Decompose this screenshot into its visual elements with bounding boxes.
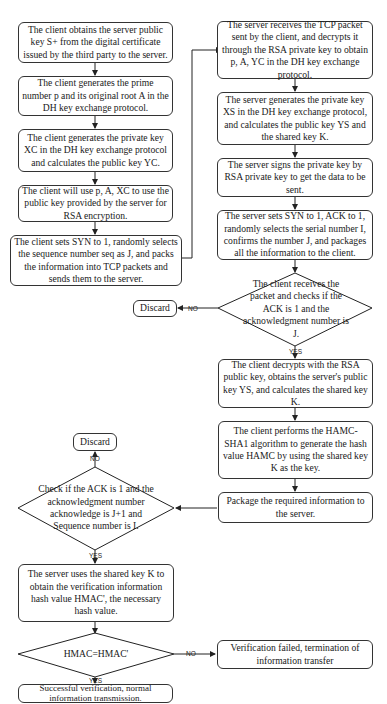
- yes-label-1: YES: [289, 348, 302, 355]
- step-server-verify-hash: The server uses the shared key K to obta…: [18, 564, 174, 622]
- no-label-2: NO: [90, 455, 100, 462]
- step-verification-success: Successful verification, normal informat…: [18, 684, 173, 703]
- step-server-receive-packet: The server receives the TCP packet sent …: [217, 21, 373, 79]
- decision-check-ack-j: The client receives the packet and check…: [240, 283, 352, 335]
- discard-box-1: Discard: [133, 300, 177, 317]
- step-client-decrypt: The client decrypts with the RSA public …: [218, 359, 373, 408]
- step-server-send-syn-ack: The server sets SYN to 1, ACK to 1, rand…: [217, 210, 373, 260]
- step-server-generate-private-key: The server generates the private key XS …: [217, 92, 373, 145]
- no-label-1: NO: [188, 305, 198, 312]
- step-client-generate-prime: The client generates the prime number p …: [18, 76, 173, 116]
- step-client-rsa-encrypt: The client will use p, A, XC to use the …: [18, 185, 173, 222]
- no-label-3: NO: [186, 650, 196, 657]
- step-client-hmac: The client performs the HAMC-SHA1 algori…: [218, 421, 373, 479]
- step-client-send-syn: The client sets SYN to 1, randomly selec…: [10, 235, 182, 286]
- step-package-info: Package the required information to the …: [218, 492, 373, 523]
- step-server-sign: The server signs the private key by RSA …: [217, 158, 373, 197]
- step-verification-failed: Verification failed, termination of info…: [217, 640, 373, 669]
- yes-label-2: YES: [89, 552, 102, 559]
- step-client-generate-private-key: The client generates the private key XC …: [18, 129, 173, 172]
- flowchart-canvas: The client obtains the server public key…: [0, 0, 387, 704]
- decision-check-ack-j1: Check if the ACK is 1 and the acknowledg…: [38, 480, 154, 536]
- decision-hmac-compare: HMAC=HMAC': [50, 646, 142, 662]
- step-client-obtain-key: The client obtains the server public key…: [18, 22, 173, 63]
- discard-box-2: Discard: [73, 433, 117, 451]
